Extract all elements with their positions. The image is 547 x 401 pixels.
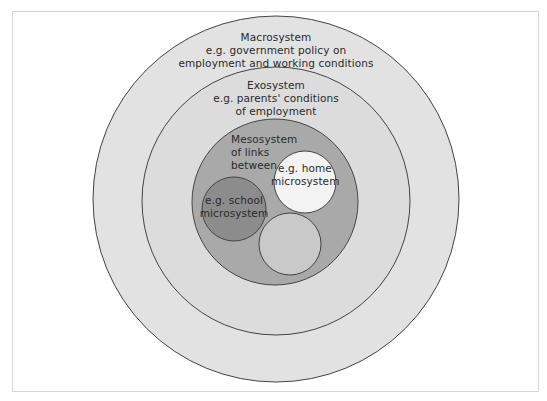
macrosystem-label: Macrosystem e.g. government policy on em…	[176, 31, 376, 70]
exosystem-label: Exosystem e.g. parents' conditions of em…	[206, 79, 346, 118]
macrosystem-title: Macrosystem	[176, 31, 376, 44]
mesosystem-title: Mesosystem	[231, 133, 311, 146]
home-microsystem-line2: microsystem	[271, 175, 339, 188]
home-microsystem-label: e.g. home microsystem	[271, 162, 339, 188]
unlabeled-microsystem-circle	[259, 213, 321, 275]
home-microsystem-line1: e.g. home	[271, 162, 339, 175]
school-microsystem-line2: microsystem	[199, 207, 269, 220]
exosystem-title: Exosystem	[206, 79, 346, 92]
macrosystem-example-2: employment and working conditions	[176, 57, 376, 70]
school-microsystem-label: e.g. school microsystem	[199, 194, 269, 220]
macrosystem-example-1: e.g. government policy on	[176, 44, 376, 57]
mesosystem-desc-1: of links	[231, 146, 311, 159]
school-microsystem-line1: e.g. school	[199, 194, 269, 207]
exosystem-example-1: e.g. parents' conditions	[206, 92, 346, 105]
exosystem-example-2: of employment	[206, 105, 346, 118]
